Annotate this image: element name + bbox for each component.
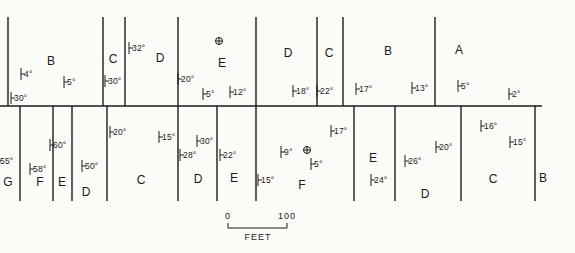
- dip-measurement: 22°: [320, 87, 333, 96]
- dip-measurement: 24°: [374, 176, 387, 185]
- unit-label: C: [137, 174, 146, 186]
- dip-measurement: 20°: [113, 128, 126, 137]
- unit-label: E: [58, 176, 66, 188]
- unit-label: D: [156, 52, 165, 64]
- unit-label: E: [218, 57, 226, 69]
- unit-label: C: [489, 173, 498, 185]
- dip-measurement: 4°: [24, 70, 33, 79]
- dip-measurement: 5°: [461, 82, 470, 91]
- dip-measurement: 55°: [0, 157, 13, 166]
- unit-label: F: [36, 176, 43, 188]
- unit-label: F: [298, 179, 305, 191]
- unit-label: A: [455, 44, 463, 56]
- unit-label: E: [369, 152, 377, 164]
- dip-measurement: 17°: [359, 85, 372, 94]
- dip-measurement: 18°: [296, 87, 309, 96]
- dip-measurement: 9°: [284, 148, 293, 157]
- dip-measurement: 15°: [261, 176, 274, 185]
- dip-measurement: 2°: [512, 90, 521, 99]
- unit-label: B: [384, 45, 392, 57]
- unit-label: G: [3, 176, 12, 188]
- unit-label: C: [325, 47, 334, 59]
- dip-measurement: 30°: [200, 137, 213, 146]
- dip-measurement: 28°: [183, 151, 196, 160]
- dip-measurement: 15°: [162, 133, 175, 142]
- dip-measurement: 50°: [85, 162, 98, 171]
- unit-label: B: [539, 172, 547, 184]
- dip-measurement: 17°: [334, 127, 347, 136]
- dip-measurement: 13°: [415, 84, 428, 93]
- scale-end-label: 100: [278, 212, 296, 221]
- dip-strike-symbols: [0, 38, 514, 229]
- dip-measurement: 22°: [223, 151, 236, 160]
- unit-label: D: [421, 188, 430, 200]
- dip-measurement: 32°: [132, 44, 145, 53]
- dip-measurement: 58°: [33, 165, 46, 174]
- dip-measurement: 26°: [408, 157, 421, 166]
- dip-measurement: 20°: [181, 75, 194, 84]
- dip-measurement: 16°: [484, 122, 497, 131]
- unit-label: D: [284, 47, 293, 59]
- unit-label: E: [230, 172, 238, 184]
- dip-measurement: 20°: [439, 143, 452, 152]
- dip-measurement: 15°: [513, 138, 526, 147]
- unit-label: C: [109, 53, 118, 65]
- scale-start-label: 0: [225, 212, 231, 221]
- dip-measurement: 5°: [67, 78, 76, 87]
- scale-units-label: FEET: [244, 233, 271, 242]
- unit-label: B: [47, 55, 55, 67]
- unit-label: D: [82, 186, 91, 198]
- dip-measurement: 30°: [108, 77, 121, 86]
- unit-label: D: [194, 173, 203, 185]
- dip-measurement: 60°: [53, 141, 66, 150]
- dip-measurement: 5°: [314, 160, 323, 169]
- dip-measurement: 30°: [14, 94, 27, 103]
- dip-measurement: 5°: [206, 90, 215, 99]
- dip-measurement: 12°: [233, 88, 246, 97]
